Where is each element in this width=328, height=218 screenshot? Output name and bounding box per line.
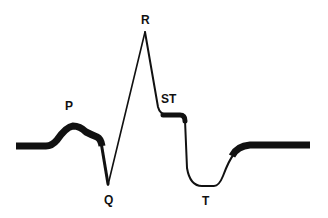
st-segment <box>163 115 185 121</box>
baseline-right <box>232 145 310 156</box>
baseline-left-and-p-wave <box>16 126 102 146</box>
label-st: ST <box>161 92 177 106</box>
r-wave-upstroke <box>108 32 145 185</box>
ecg-waveform-diagram: P R ST Q T <box>0 0 328 218</box>
label-r: R <box>141 13 150 27</box>
label-t: T <box>202 194 210 208</box>
label-q: Q <box>104 193 113 207</box>
q-wave-descent <box>101 142 108 184</box>
t-wave <box>185 120 234 186</box>
label-p: P <box>65 99 73 113</box>
